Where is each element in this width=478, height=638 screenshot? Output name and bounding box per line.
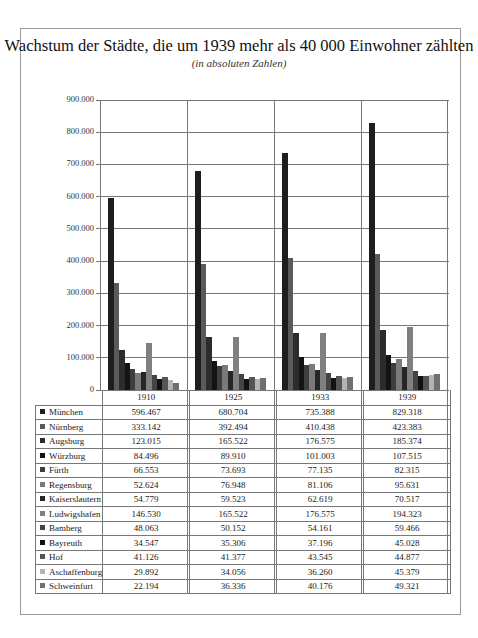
legend-entry: Hof (36, 550, 103, 565)
legend-swatch-icon (40, 453, 45, 458)
category-label: 1933 (277, 390, 364, 405)
table-cell: 70.517 (364, 492, 451, 507)
table-row: Ludwigshafen146.530165.522176.575194.323 (36, 507, 451, 522)
legend-swatch-icon (40, 583, 45, 588)
table-cell: 194.323 (364, 507, 451, 522)
table-cell: 829.318 (364, 405, 451, 420)
table-cell: 50.152 (190, 521, 277, 536)
legend-swatch-icon (40, 467, 45, 472)
table-cell: 34.056 (190, 565, 277, 580)
table-cell: 45.028 (364, 536, 451, 551)
legend-swatch-icon (40, 569, 45, 574)
table-cell: 41.377 (190, 550, 277, 565)
legend-entry: Würzburg (36, 449, 103, 464)
table-row: Bamberg48.06350.15254.16159.466 (36, 521, 451, 536)
legend-label: Regensburg (49, 480, 92, 490)
gridline (96, 132, 449, 133)
category-label: 1910 (103, 390, 190, 405)
legend-label: Kaiserslautern (49, 494, 101, 504)
y-tick-label: 800.000 (40, 126, 94, 136)
category-label: 1925 (190, 390, 277, 405)
table-cell: 123.015 (103, 434, 190, 449)
table-row: Hof41.12641.37743.54544.877 (36, 550, 451, 565)
legend-label: Ludwigshafen (49, 509, 101, 519)
legend-label: Aschaffenburg (49, 567, 102, 577)
gridline (96, 164, 449, 165)
y-tick-label: 200.000 (40, 320, 94, 330)
legend-label: Würzburg (49, 451, 85, 461)
table-cell: 76.948 (190, 478, 277, 493)
table-cell: 165.522 (190, 434, 277, 449)
legend-swatch-icon (40, 482, 45, 487)
legend-entry: Bayreuth (36, 536, 103, 551)
table-header-row: 1910192519331939 (36, 390, 451, 405)
table-cell: 84.496 (103, 449, 190, 464)
legend-label: Augsburg (49, 436, 84, 446)
table-cell: 392.494 (190, 420, 277, 435)
table-row: Regensburg52.62476.94881.10695.631 (36, 478, 451, 493)
legend-label: München (49, 407, 83, 417)
legend-entry: Bamberg (36, 521, 103, 536)
table-cell: 45.379 (364, 565, 451, 580)
legend-entry: Fürth (36, 463, 103, 478)
table-cell: 89.910 (190, 449, 277, 464)
legend-label: Bayreuth (49, 538, 82, 548)
y-tick-label: 500.000 (40, 223, 94, 233)
header-blank-cell (36, 390, 103, 405)
y-tick-label: 300.000 (40, 287, 94, 297)
chart-subtitle: (in absoluten Zahlen) (0, 57, 478, 69)
table-cell: 37.196 (277, 536, 364, 551)
table-cell: 29.892 (103, 565, 190, 580)
table-cell: 176.575 (277, 434, 364, 449)
table-cell: 54.779 (103, 492, 190, 507)
legend-swatch-icon (40, 496, 45, 501)
table-row: Würzburg84.49689.910101.003107.515 (36, 449, 451, 464)
y-tick-label: 400.000 (40, 255, 94, 265)
table-cell: 596.467 (103, 405, 190, 420)
legend-swatch-icon (40, 438, 45, 443)
table-cell: 146.530 (103, 507, 190, 522)
table-row: Nürnberg333.142392.494410.438423.383 (36, 420, 451, 435)
bar (260, 378, 265, 390)
gridline (96, 196, 449, 197)
y-tick-label: 900.000 (40, 94, 94, 104)
bar (434, 374, 439, 390)
legend-entry: München (36, 405, 103, 420)
table-cell: 333.142 (103, 420, 190, 435)
table-cell: 95.631 (364, 478, 451, 493)
gridline (96, 261, 449, 262)
gridline (96, 293, 449, 294)
table-cell: 165.522 (190, 507, 277, 522)
category-label: 1939 (364, 390, 451, 405)
table-cell: 423.383 (364, 420, 451, 435)
table-cell: 49.321 (364, 579, 451, 594)
table-row: Schweinfurt22.19436.33640.17649.321 (36, 579, 451, 594)
table-row: München596.467680.704735.388829.318 (36, 405, 451, 420)
legend-entry: Kaiserslautern (36, 492, 103, 507)
legend-label: Schweinfurt (49, 581, 93, 591)
legend-entry: Aschaffenburg (36, 565, 103, 580)
legend-label: Hof (49, 552, 63, 562)
legend-swatch-icon (40, 424, 45, 429)
bar (347, 377, 352, 390)
legend-entry: Nürnberg (36, 420, 103, 435)
table-cell: 54.161 (277, 521, 364, 536)
table-cell: 107.515 (364, 449, 451, 464)
table-cell: 35.306 (190, 536, 277, 551)
table-cell: 185.374 (364, 434, 451, 449)
table-cell: 34.547 (103, 536, 190, 551)
legend-label: Bamberg (49, 523, 82, 533)
legend-swatch-icon (40, 554, 45, 559)
table-cell: 66.553 (103, 463, 190, 478)
gridline (96, 325, 449, 326)
table-cell: 43.545 (277, 550, 364, 565)
table-cell: 77.135 (277, 463, 364, 478)
table-cell: 680.704 (190, 405, 277, 420)
legend-entry: Schweinfurt (36, 579, 103, 594)
y-tick-label: 600.000 (40, 191, 94, 201)
bar (173, 383, 178, 390)
table-cell: 59.466 (364, 521, 451, 536)
table-cell: 59.523 (190, 492, 277, 507)
table-cell: 73.693 (190, 463, 277, 478)
table-cell: 40.176 (277, 579, 364, 594)
